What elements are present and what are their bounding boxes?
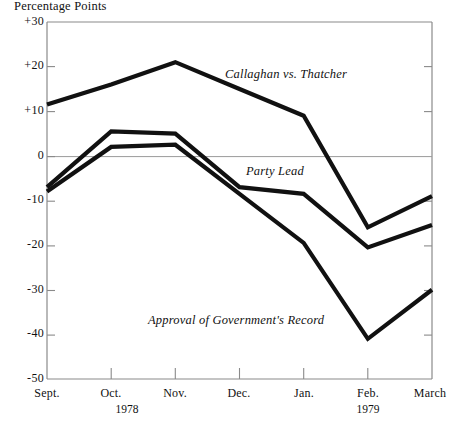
series-line-callaghan-vs-thatcher xyxy=(47,62,432,227)
x-tick-label-nov: Nov. xyxy=(140,386,210,401)
y-tick-label: -40 xyxy=(0,326,44,341)
chart-plot-area xyxy=(0,0,452,433)
y-tick-label: +10 xyxy=(0,103,44,118)
x-tick-label-oct: Oct. xyxy=(76,386,146,401)
y-tick-label: +30 xyxy=(0,14,44,29)
series-line-approval-of-governments-record xyxy=(47,145,432,339)
y-tick-label: -10 xyxy=(0,192,44,207)
x-tick-marks xyxy=(111,368,368,379)
series-annotation-approval-of-governments-record: Approval of Government's Record xyxy=(148,313,324,328)
x-axis-year-1979: 1979 xyxy=(333,403,403,415)
x-tick-label-feb: Feb. xyxy=(333,386,403,401)
y-tick-label: 0 xyxy=(0,148,44,163)
x-axis-year-1978: 1978 xyxy=(92,403,162,415)
x-tick-label-jan: Jan. xyxy=(269,386,339,401)
series-annotation-callaghan-vs-thatcher: Callaghan vs. Thatcher xyxy=(225,67,347,82)
series-line-party-lead xyxy=(47,131,432,247)
series-annotation-party-lead: Party Lead xyxy=(246,164,304,179)
x-tick-label-sept: Sept. xyxy=(12,386,82,401)
x-tick-label-march: March xyxy=(395,386,452,401)
y-tick-label: -30 xyxy=(0,282,44,297)
x-tick-label-dec: Dec. xyxy=(204,386,274,401)
chart-container: Percentage Points xyxy=(0,0,452,433)
y-tick-marks xyxy=(47,67,55,336)
y-tick-label: -20 xyxy=(0,237,44,252)
y-tick-label: +20 xyxy=(0,58,44,73)
y-tick-label: -50 xyxy=(0,371,44,386)
